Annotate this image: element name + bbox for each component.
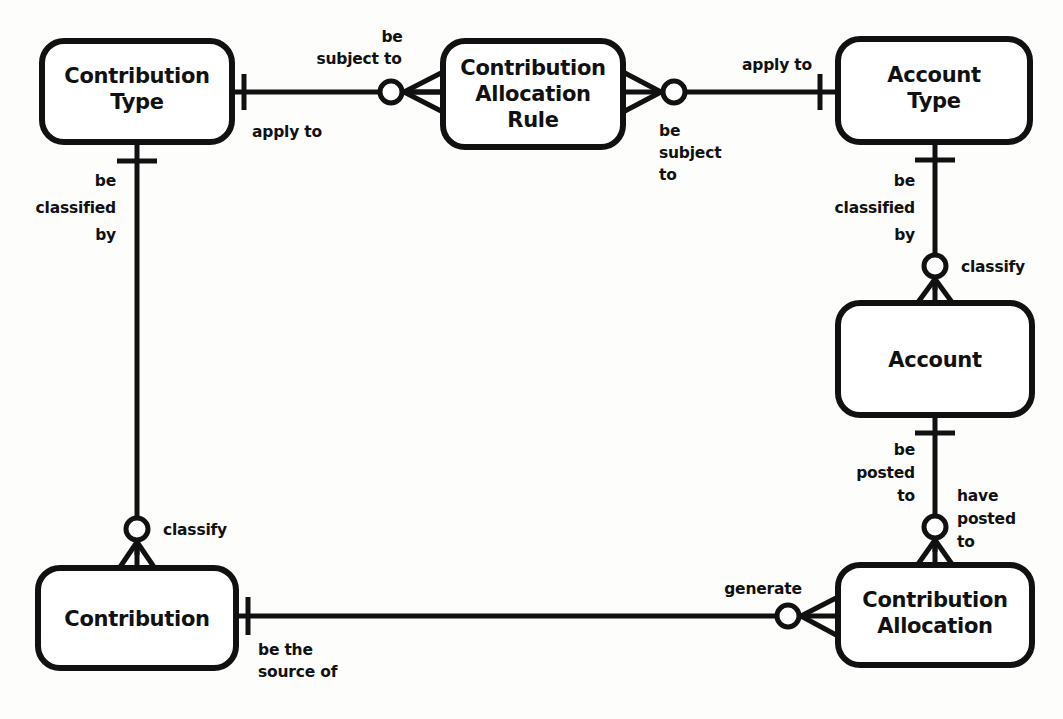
cardinality-optional-circle <box>126 518 148 540</box>
relationship-label-be-subject-to-1-line2: subject to <box>316 50 401 68</box>
cardinality-many-crowsfoot <box>801 597 838 636</box>
relationship-label-be-subject-to-2-line3: to <box>659 166 677 184</box>
erd-diagram: Contribution Type Contribution Allocatio… <box>0 0 1063 719</box>
entity-account-type[interactable]: Account Type <box>838 39 1030 142</box>
entity-account[interactable]: Account <box>838 303 1032 415</box>
cardinality-optional-circle <box>663 81 685 103</box>
relationship-label-be-posted-to-line1: be <box>894 441 915 459</box>
cardinality-optional-circle <box>924 516 946 538</box>
relationship-label-be-classified-by-left-line2: classified <box>36 199 116 217</box>
entity-label-line: Type <box>907 89 961 113</box>
entity-contribution-allocation[interactable]: Contribution Allocation <box>838 565 1032 665</box>
entity-label-line: Contribution <box>460 56 605 80</box>
relationship-label-classify-left: classify <box>163 521 227 539</box>
relationship-account-to-contribution-allocation[interactable] <box>915 415 955 567</box>
relationship-label-classify-right: classify <box>961 258 1025 276</box>
relationship-label-be-subject-to-1-line1: be <box>381 28 402 46</box>
entity-label-line: Contribution <box>64 64 209 88</box>
cardinality-many-crowsfoot <box>404 72 443 112</box>
relationship-label-be-the-source-of-line2: source of <box>258 663 338 681</box>
entity-contribution-allocation-rule[interactable]: Contribution Allocation Rule <box>443 41 623 147</box>
relationship-label-have-posted-to-line3: to <box>957 533 975 551</box>
relationship-contribution-to-contribution-allocation[interactable] <box>236 597 838 636</box>
entity-contribution[interactable]: Contribution <box>38 568 236 668</box>
relationship-label-be-subject-to-2-line1: be <box>659 122 680 140</box>
relationship-label-be-classified-by-left-line1: be <box>95 172 116 190</box>
relationship-label-generate: generate <box>724 580 802 598</box>
entity-label-line: Rule <box>507 108 558 132</box>
cardinality-optional-circle <box>924 255 946 277</box>
entity-label-line: Contribution <box>64 607 209 631</box>
relationship-rule-to-account-type[interactable] <box>623 72 838 112</box>
relationship-account-type-to-account[interactable] <box>915 142 955 305</box>
relationship-label-be-classified-by-right-line1: be <box>894 172 915 190</box>
relationship-contribution-type-to-contribution[interactable] <box>117 142 157 570</box>
relationship-label-be-subject-to-2-line2: subject <box>659 144 722 162</box>
entity-label-line: Account <box>887 63 981 87</box>
cardinality-many-crowsfoot <box>623 72 661 112</box>
entity-label-line: Type <box>110 90 164 114</box>
entity-label-line: Contribution <box>862 588 1007 612</box>
relationship-label-have-posted-to-line2: posted <box>957 510 1016 528</box>
relationship-label-be-posted-to-line2: posted <box>856 464 915 482</box>
relationship-label-be-posted-to-line3: to <box>897 487 915 505</box>
entity-contribution-type[interactable]: Contribution Type <box>42 41 232 142</box>
entity-label-line: Account <box>888 348 982 372</box>
entity-label-line: Allocation <box>475 82 590 106</box>
relationship-label-apply-to-1: apply to <box>252 123 322 141</box>
entity-label-line: Allocation <box>877 614 992 638</box>
relationship-label-be-classified-by-right-line2: classified <box>835 199 915 217</box>
relationship-label-have-posted-to-line1: have <box>957 487 998 505</box>
cardinality-optional-circle <box>777 605 799 627</box>
erd-canvas: Contribution Type Contribution Allocatio… <box>0 0 1063 719</box>
cardinality-optional-circle <box>380 81 402 103</box>
relationship-label-be-classified-by-right-line3: by <box>894 226 915 244</box>
relationship-label-be-the-source-of-line1: be the <box>258 641 313 659</box>
relationship-label-apply-to-2: apply to <box>742 56 812 74</box>
relationship-label-be-classified-by-left-line3: by <box>95 226 116 244</box>
